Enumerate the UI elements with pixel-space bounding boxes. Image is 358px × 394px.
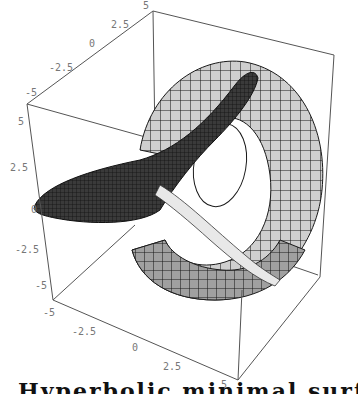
tick-label: 2.5 — [10, 162, 28, 173]
minimal-surface — [34, 61, 322, 300]
top-axis-ticks: -5 -2.5 0 2.5 5 — [25, 0, 149, 98]
tick-label: 5 — [143, 0, 149, 11]
figure-caption: Hyperbolic minimal surface — [18, 378, 358, 394]
tick-label: -2.5 — [49, 62, 73, 73]
tick-label: -5 — [43, 307, 55, 318]
surface-annulus-lower — [132, 240, 305, 300]
tick-label: -5 — [35, 280, 47, 291]
tick-label: 0 — [89, 38, 95, 49]
tick-label: -2.5 — [72, 326, 96, 337]
tick-label: -2.5 — [15, 244, 39, 255]
tick-label: 0 — [31, 204, 37, 215]
tick-label: -5 — [25, 87, 37, 98]
tick-label: 0 — [132, 342, 138, 353]
tick-label: 5 — [18, 116, 24, 127]
tick-label: 2.5 — [163, 361, 181, 372]
tick-label: 2.5 — [111, 19, 129, 30]
